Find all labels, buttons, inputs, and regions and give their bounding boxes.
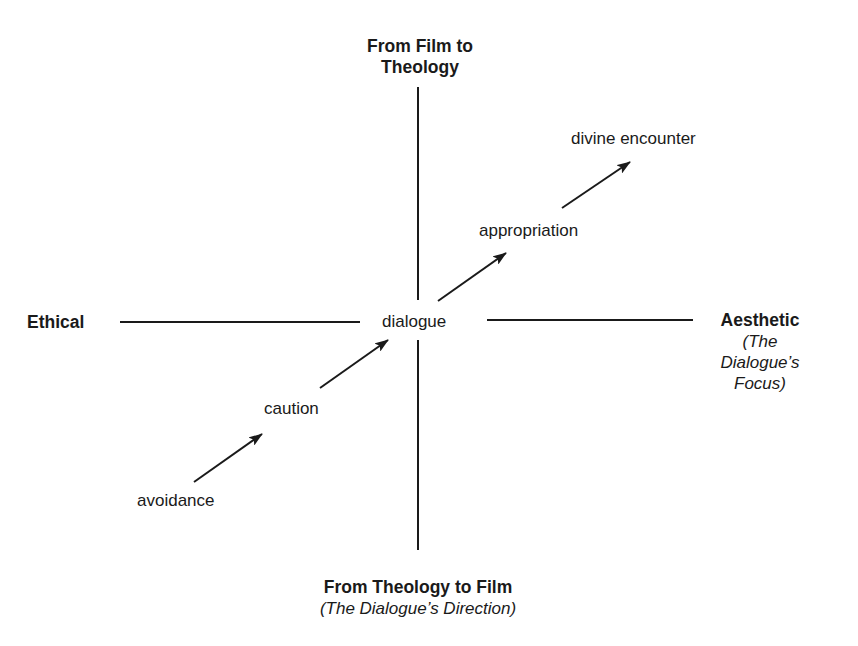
- node-caution: caution: [264, 398, 319, 419]
- right-axis-label: Aesthetic (The Dialogue’s Focus): [700, 310, 820, 394]
- bottom-axis-title: From Theology to Film: [268, 577, 568, 598]
- node-divine-encounter: divine encounter: [571, 128, 696, 149]
- top-axis-title-line1: From Film to: [340, 36, 500, 57]
- right-axis-subtitle-line2: Dialogue’s: [700, 352, 820, 373]
- bottom-axis-label: From Theology to Film (The Dialogue’s Di…: [268, 577, 568, 619]
- node-dialogue: dialogue: [382, 311, 446, 332]
- top-axis-title-line2: Theology: [340, 57, 500, 78]
- arrow-avoidance-to-caution: [194, 434, 262, 482]
- node-appropriation: appropriation: [479, 220, 578, 241]
- right-axis-subtitle-line1: (The: [700, 331, 820, 352]
- arrow-caution-to-dialogue: [320, 340, 388, 388]
- right-axis-title: Aesthetic: [700, 310, 820, 331]
- arrow-appropriation-to-divine: [562, 162, 630, 208]
- arrow-dialogue-to-appropriation: [438, 253, 506, 301]
- bottom-axis-subtitle: (The Dialogue’s Direction): [268, 598, 568, 619]
- left-axis-title: Ethical: [27, 312, 84, 333]
- top-axis-title: From Film to Theology: [340, 36, 500, 78]
- node-avoidance: avoidance: [137, 490, 215, 511]
- right-axis-subtitle-line3: Focus): [700, 373, 820, 394]
